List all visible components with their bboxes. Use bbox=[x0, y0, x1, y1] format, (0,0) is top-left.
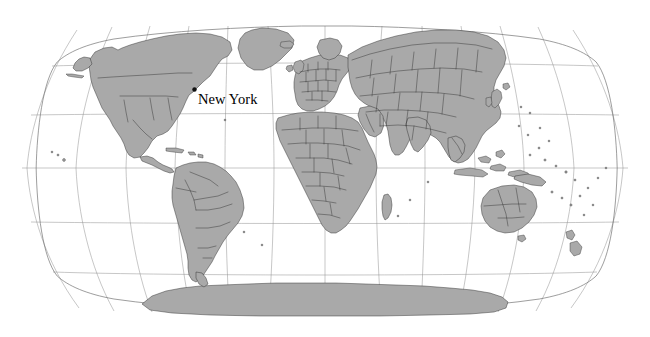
landmass-alaska bbox=[73, 57, 92, 71]
meridian-30w bbox=[225, 26, 229, 312]
landmass-south-america bbox=[172, 162, 244, 282]
landmass-tasmania bbox=[518, 235, 526, 242]
city-label-new-york: New York bbox=[198, 92, 258, 107]
landmass-madagascar bbox=[382, 194, 392, 220]
meridian-prime bbox=[268, 26, 274, 312]
landmass-central-america bbox=[140, 156, 174, 173]
world-map-figure: New York bbox=[0, 0, 650, 337]
landmass-india bbox=[406, 117, 431, 152]
landmass-antarctica bbox=[142, 283, 508, 316]
landmass-new-zealand bbox=[566, 230, 582, 256]
meridian-150w bbox=[27, 30, 79, 308]
landmass-australia bbox=[481, 185, 537, 233]
landmass-greenland bbox=[238, 28, 294, 70]
landmass-caribbean bbox=[166, 148, 203, 158]
world-map-svg bbox=[0, 0, 650, 337]
landmass-asia bbox=[348, 30, 506, 163]
city-marker-new-york[interactable] bbox=[192, 87, 196, 91]
meridian-150e-far bbox=[571, 30, 623, 308]
landmass-new-guinea bbox=[514, 174, 546, 186]
landmass-antarctic-peninsula bbox=[196, 272, 208, 287]
meridian-180e bbox=[536, 27, 574, 311]
landmass-aleutians bbox=[66, 74, 84, 78]
